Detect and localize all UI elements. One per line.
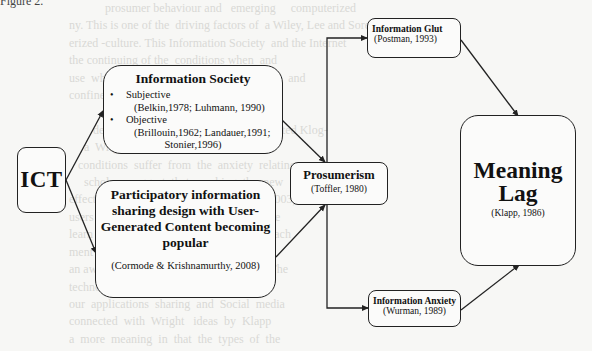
node-information-society: Information Society Subjective (Belkin,1… bbox=[103, 65, 283, 154]
edge-prosumerism-anxiety bbox=[327, 205, 368, 308]
node-meaning-lag-cite: (Klapp, 1986) bbox=[461, 208, 575, 218]
subjective-cite: (Belkin,1978; Luhmann, 1990) bbox=[126, 102, 282, 115]
node-information-anxiety-title: Information Anxiety bbox=[369, 296, 460, 306]
node-information-glut: Information Glut (Postman, 1993) bbox=[367, 18, 461, 58]
node-information-anxiety: Information Anxiety (Wurman, 1989) bbox=[368, 290, 461, 327]
node-information-anxiety-cite: (Wurman, 1989) bbox=[369, 306, 460, 316]
node-information-glut-cite: (Postman, 1993) bbox=[372, 34, 460, 44]
list-item-subjective: Subjective (Belkin,1978; Luhmann, 1990) bbox=[104, 89, 282, 114]
node-ict-title: ICT bbox=[20, 167, 62, 193]
node-prosumerism-cite: (Toffler, 1980) bbox=[291, 184, 387, 194]
edge-glut-meaninglag bbox=[461, 40, 518, 116]
edge-ict-participatory bbox=[66, 180, 96, 253]
node-meaning-lag-title-line1: Meaning bbox=[461, 159, 575, 182]
information-society-list: Subjective (Belkin,1978; Luhmann, 1990) … bbox=[104, 89, 282, 152]
node-information-glut-title: Information Glut bbox=[372, 24, 460, 34]
edge-prosumerism-glut bbox=[327, 38, 367, 162]
edge-ict-society bbox=[66, 111, 103, 180]
edge-society-prosumerism bbox=[282, 120, 325, 162]
node-ict: ICT bbox=[17, 147, 66, 213]
node-participatory-title: Participatory information sharing design… bbox=[96, 187, 275, 251]
subjective-label: Subjective bbox=[126, 89, 170, 100]
edge-participatory-prosumerism bbox=[276, 205, 325, 257]
node-prosumerism: Prosumerism (Toffler, 1980) bbox=[290, 162, 388, 205]
node-information-society-title: Information Society bbox=[104, 71, 282, 87]
node-prosumerism-title: Prosumerism bbox=[291, 168, 387, 183]
node-meaning-lag: Meaning Lag (Klapp, 1986) bbox=[460, 115, 576, 266]
list-item-objective: Objective (Brillouin,1962; Landauer,1991… bbox=[104, 114, 282, 152]
objective-cite-line1: (Brillouin,1962; Landauer,1991; bbox=[126, 127, 282, 140]
node-participatory-cite: (Cormode & Krishnamurthy, 2008) bbox=[96, 260, 275, 271]
node-meaning-lag-title-line2: Lag bbox=[461, 182, 575, 205]
objective-cite-line2: Stonier,1996) bbox=[104, 139, 282, 152]
edge-anxiety-meaninglag bbox=[461, 265, 519, 310]
objective-label: Objective bbox=[126, 114, 167, 125]
node-participatory-sharing: Participatory information sharing design… bbox=[95, 180, 276, 298]
